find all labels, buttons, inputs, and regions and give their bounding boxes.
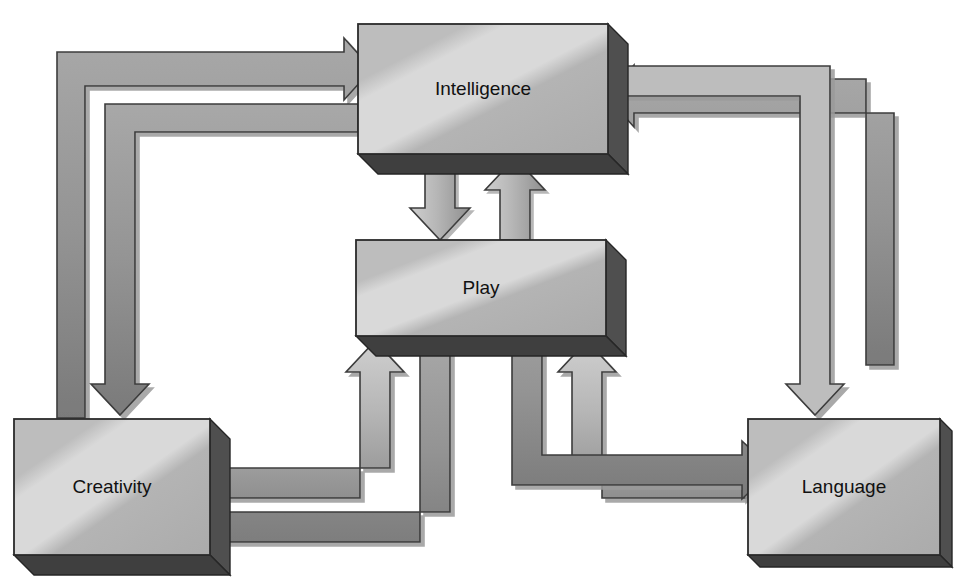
node-creativity[interactable]: Creativity [14, 419, 230, 575]
node-label-play: Play [463, 277, 500, 298]
edge-creativity-to-play [205, 341, 404, 498]
node-label-language: Language [802, 476, 887, 497]
node-label-intelligence: Intelligence [435, 78, 531, 99]
node-label-creativity: Creativity [72, 476, 152, 497]
diagram-canvas: Intelligence Play Creativity Language [0, 0, 954, 583]
node-intelligence[interactable]: Intelligence [358, 24, 628, 174]
edge-intelligence-to-creativity [91, 104, 358, 415]
edge-intelligence-to-language [608, 66, 844, 415]
block-flow-diagram: Intelligence Play Creativity Language [0, 0, 954, 583]
node-language[interactable]: Language [748, 419, 952, 567]
node-play[interactable]: Play [356, 240, 626, 356]
edge-language-to-intelligence [606, 56, 897, 418]
